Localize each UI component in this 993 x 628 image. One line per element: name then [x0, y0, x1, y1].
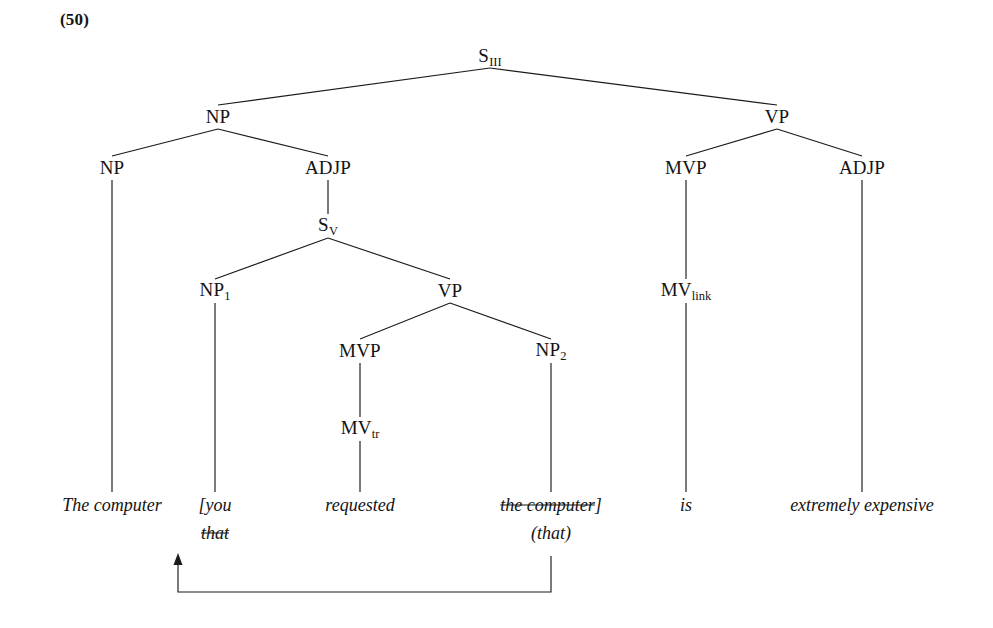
- tree-node-np_left: NP: [100, 157, 125, 179]
- terminal-word: extremely expensive: [790, 495, 934, 515]
- tree-edge: [218, 68, 490, 105]
- terminal-t_that_struck: that: [201, 523, 229, 544]
- tree-node-s3: SIII: [478, 45, 501, 70]
- tree-node-np2: NP2: [536, 339, 567, 364]
- terminal-t_the_computer: The computer: [62, 495, 161, 516]
- tree-node-subscript: III: [489, 55, 502, 69]
- tree-node-subscript: 1: [224, 289, 230, 303]
- tree-node-label: VP: [438, 280, 463, 301]
- tree-node-np1: NP1: [200, 279, 231, 304]
- tree-node-subscript: link: [692, 289, 711, 303]
- tree-edge: [215, 238, 328, 279]
- tree-edge: [450, 303, 551, 339]
- terminal-t_requested: requested: [325, 495, 394, 516]
- terminal-word: the computer: [500, 495, 594, 515]
- tree-edge: [360, 303, 450, 339]
- tree-node-label: VP: [765, 106, 790, 127]
- tree-node-mv_tr: MVtr: [341, 417, 380, 442]
- figure-canvas: (50) SIIINPVPNPADJPMVPADJPSVNP1VPMVPNP2M…: [0, 0, 993, 628]
- tree-node-subscript: tr: [372, 427, 380, 441]
- tree-node-mvp_r: MVP: [665, 157, 707, 179]
- movement-arrow-path: [178, 556, 551, 592]
- tree-node-vp_top: VP: [765, 106, 790, 128]
- tree-node-adjp_l: ADJP: [305, 157, 351, 179]
- tree-node-label: ADJP: [305, 157, 351, 178]
- tree-node-label: MVP: [665, 157, 707, 178]
- syntax-tree-lines: [0, 0, 993, 628]
- tree-node-subscript: 2: [560, 349, 566, 363]
- terminal-word: (that): [531, 523, 571, 543]
- tree-node-label: NP: [536, 339, 561, 360]
- terminal-bracket: ]: [595, 495, 602, 515]
- tree-edge: [328, 238, 450, 279]
- movement-arrow-head: [174, 553, 183, 565]
- terminal-t_you: [you: [199, 495, 232, 516]
- tree-node-vp_mid: VP: [438, 280, 463, 302]
- terminal-t_is: is: [680, 495, 692, 516]
- terminal-word: requested: [325, 495, 394, 515]
- tree-node-subscript: V: [329, 224, 338, 238]
- tree-node-label: NP: [206, 106, 231, 127]
- tree-node-sv: SV: [318, 214, 338, 239]
- tree-node-label: NP: [100, 157, 125, 178]
- terminal-word: [you: [199, 495, 232, 515]
- terminal-t_the_comp_2: the computer]: [500, 495, 602, 516]
- tree-edge: [490, 68, 777, 105]
- tree-node-mv_link: MVlink: [661, 279, 711, 304]
- tree-node-label: MV: [661, 279, 692, 300]
- terminal-word: The computer: [62, 495, 161, 515]
- terminal-t_that_paren: (that): [531, 523, 571, 544]
- tree-edge: [112, 129, 218, 156]
- tree-node-label: NP: [200, 279, 225, 300]
- tree-node-np_top: NP: [206, 106, 231, 128]
- tree-node-mvp_mid: MVP: [339, 340, 381, 362]
- tree-edge: [686, 129, 777, 156]
- tree-node-label: S: [478, 45, 489, 66]
- terminal-t_extremely: extremely expensive: [790, 495, 934, 516]
- tree-edge: [218, 129, 328, 156]
- tree-node-label: MV: [341, 417, 372, 438]
- tree-node-label: ADJP: [839, 157, 885, 178]
- tree-node-adjp_r: ADJP: [839, 157, 885, 179]
- tree-node-label: S: [318, 214, 329, 235]
- terminal-word: is: [680, 495, 692, 515]
- movement-arrow-group: [174, 553, 552, 592]
- tree-node-label: MVP: [339, 340, 381, 361]
- terminal-word: that: [201, 523, 229, 543]
- tree-edge: [777, 129, 862, 156]
